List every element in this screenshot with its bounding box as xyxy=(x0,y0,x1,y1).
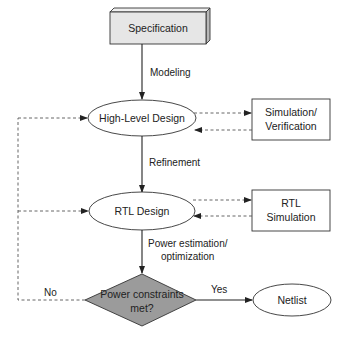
netlist-node: Netlist xyxy=(253,284,331,316)
specification-node: Specification xyxy=(110,8,210,44)
high-level-design-label: High-Level Design xyxy=(99,112,185,124)
specification-label: Specification xyxy=(128,22,188,34)
refinement-label: Refinement xyxy=(149,157,200,168)
simulation-verification-line2: Verification xyxy=(265,120,317,132)
rtl-simulation-line2: Simulation xyxy=(266,211,315,223)
simulation-verification-line1: Simulation/ xyxy=(265,106,317,118)
modeling-label: Modeling xyxy=(150,67,191,78)
power-constraints-line1: Power constraints xyxy=(100,288,183,300)
rtl-simulation-node: RTL Simulation xyxy=(252,190,330,231)
power-constraints-line2: met? xyxy=(130,302,154,314)
simulation-verification-node: Simulation/ Verification xyxy=(252,99,330,140)
power-constraints-decision: Power constraints met? xyxy=(85,274,196,326)
no-label: No xyxy=(44,287,57,298)
high-level-design-node: High-Level Design xyxy=(88,100,196,136)
power-estimation-label-1: Power estimation/ xyxy=(148,238,228,249)
rtl-design-label: RTL Design xyxy=(115,205,170,217)
yes-label: Yes xyxy=(211,284,227,295)
rtl-design-node: RTL Design xyxy=(89,192,195,230)
netlist-label: Netlist xyxy=(277,294,306,306)
no-feedback-line xyxy=(18,118,85,300)
power-estimation-label-2: optimization xyxy=(161,251,214,262)
rtl-simulation-line1: RTL xyxy=(281,197,301,209)
flow-diagram: Specification Modeling High-Level Design… xyxy=(0,0,346,341)
